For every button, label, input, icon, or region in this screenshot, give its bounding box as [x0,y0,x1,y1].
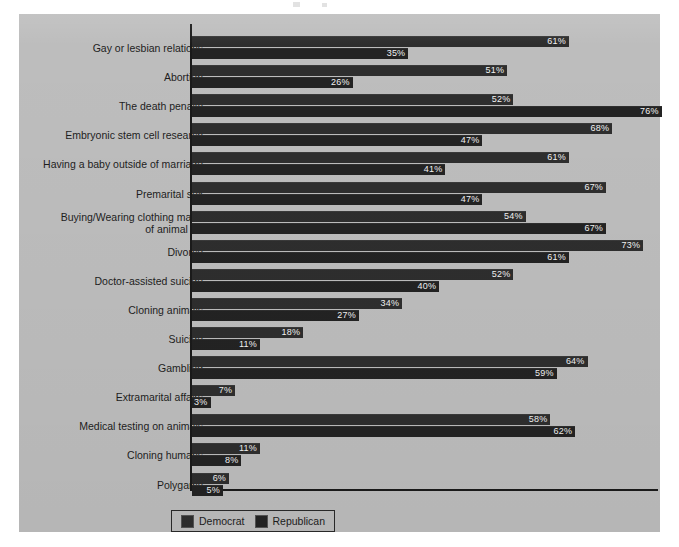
bar-value-label: 26% [331,77,350,88]
bar-republican: 47% [192,194,482,205]
bar-value-label: 41% [424,164,443,175]
bar-value-label: 68% [591,123,610,134]
bar-value-label: 51% [486,65,505,76]
bar-democrat: 6% [192,473,229,484]
bar-value-label: 8% [225,455,238,466]
bar-republican: 41% [192,164,445,175]
bar-democrat: 51% [192,65,507,76]
category-label: Having a baby outside of marriage [43,158,203,171]
bar-republican: 47% [192,135,482,146]
bar-republican: 35% [192,48,408,59]
chart-page: Gay or lesbian relationsAbortionThe deat… [0,0,679,547]
category-label: Embryonic stem cell research [43,129,203,142]
bar-democrat: 68% [192,123,612,134]
bar-value-label: 73% [622,240,641,251]
bar-value-label: 76% [640,106,659,117]
category-label: Extramarital affairs [43,391,203,404]
bar-value-label: 62% [554,426,573,437]
bar-value-label: 35% [387,48,406,59]
bar-value-label: 61% [547,152,566,163]
plot-area: 61%35%51%26%52%76%68%47%61%41%67%47%54%6… [190,24,660,492]
bar-democrat: 34% [192,298,402,309]
bar-value-label: 54% [504,211,523,222]
category-label: Polygamy [43,479,203,492]
bar-value-label: 5% [206,485,219,496]
bar-democrat: 54% [192,211,526,222]
bar-republican: 3% [192,397,211,408]
legend-label: Democrat [199,515,245,527]
category-labels: Gay or lesbian relationsAbortionThe deat… [43,28,203,498]
bar-democrat: 58% [192,414,550,425]
legend-label: Republican [273,515,326,527]
bar-value-label: 59% [535,368,554,379]
bar-republican: 61% [192,252,569,263]
bar-value-label: 67% [584,182,603,193]
scan-artifact [322,3,327,7]
bar-republican: 26% [192,77,353,88]
bar-value-label: 52% [492,94,511,105]
legend-item-republican[interactable]: Republican [255,515,326,528]
bar-value-label: 52% [492,269,511,280]
bar-value-label: 11% [239,443,257,454]
bar-democrat: 73% [192,240,643,251]
category-label: Premarital sex [43,188,203,201]
category-label: Doctor-assisted suicide [43,275,203,288]
bar-value-label: 27% [337,310,356,321]
bar-democrat: 52% [192,94,513,105]
bar-republican: 59% [192,368,557,379]
bar-republican: 40% [192,281,439,292]
bar-value-label: 34% [380,298,399,309]
bar-democrat: 18% [192,327,303,338]
bar-democrat: 67% [192,182,606,193]
category-label: Cloning animals [43,304,203,317]
bar-value-label: 64% [566,356,585,367]
bar-rows: 61%35%51%26%52%76%68%47%61%41%67%47%54%6… [192,24,660,490]
bar-value-label: 3% [194,397,207,408]
bar-value-label: 6% [213,473,226,484]
legend-swatch-icon [255,515,268,528]
bar-value-label: 67% [584,223,603,234]
bar-value-label: 47% [461,194,480,205]
bar-value-label: 40% [418,281,437,292]
category-label: Buying/Wearing clothing made of animal f… [43,211,203,236]
chart-panel: Gay or lesbian relationsAbortionThe deat… [19,14,660,532]
bar-republican: 67% [192,223,606,234]
bar-value-label: 7% [219,385,232,396]
legend-swatch-icon [181,515,194,528]
bar-republican: 76% [192,106,662,117]
bar-value-label: 47% [461,135,480,146]
category-label: Cloning humans [43,449,203,462]
bar-republican: 62% [192,426,575,437]
category-label: Gay or lesbian relations [43,42,203,55]
chart-legend: DemocratRepublican [171,510,335,532]
bar-republican: 27% [192,310,359,321]
bar-democrat: 52% [192,269,513,280]
bar-value-label: 18% [282,327,301,338]
category-label: Gambling [43,362,203,375]
category-label: Divorce [43,246,203,259]
bar-value-label: 11% [239,339,257,350]
bar-republican: 8% [192,455,241,466]
bar-republican: 5% [192,485,223,496]
bar-value-label: 58% [529,414,548,425]
bar-democrat: 11% [192,443,260,454]
bar-democrat: 7% [192,385,235,396]
category-label: Suicide [43,333,203,346]
bar-democrat: 61% [192,152,569,163]
bar-democrat: 64% [192,356,588,367]
legend-item-democrat[interactable]: Democrat [181,515,245,528]
bar-republican: 11% [192,339,260,350]
category-label: Abortion [43,71,203,84]
scan-artifact [293,2,300,7]
bar-value-label: 61% [547,36,566,47]
category-label: The death penalty [43,100,203,113]
bar-value-label: 61% [547,252,566,263]
bar-democrat: 61% [192,36,569,47]
category-label: Medical testing on animals [43,420,203,433]
